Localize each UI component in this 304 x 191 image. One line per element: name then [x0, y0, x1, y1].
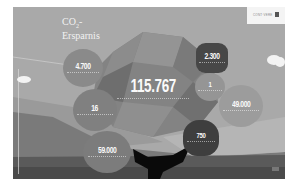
stat-bubble: 4.700: [63, 49, 103, 87]
margin-line: [18, 69, 19, 174]
stat-bubble: 49.000: [219, 85, 263, 127]
stat-bubble: 2.300: [196, 43, 228, 73]
logo-mark-icon: [275, 12, 279, 17]
logo-text: CONT·VERE: [253, 13, 272, 17]
stat-bubble: 16: [73, 89, 117, 131]
infographic-page: CO2- Ersparnis CONT·VERE 115.767 4.700 1…: [13, 7, 285, 179]
stat-bubble: 750: [183, 120, 219, 156]
page-number: [272, 167, 279, 171]
cloud-left-icon: [17, 76, 31, 83]
center-stat: 115.767: [108, 69, 198, 109]
stat-bubble: 59.000: [83, 131, 131, 173]
page-title: CO2- Ersparnis: [62, 17, 100, 41]
cloud-right-icon: [275, 57, 285, 67]
publisher-logo: CONT·VERE: [247, 7, 285, 24]
